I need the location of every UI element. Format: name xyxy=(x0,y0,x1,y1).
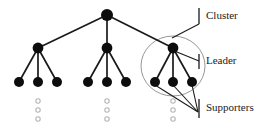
cluster-tree-diagram: ClusterLeaderSupporters xyxy=(0,0,270,128)
tree-node-supporter xyxy=(150,77,160,87)
tree-node-supporter xyxy=(102,77,112,87)
tree-node-leader xyxy=(168,43,179,54)
diagram-canvas: ClusterLeaderSupporters xyxy=(0,0,270,128)
tree-node-leader xyxy=(102,43,113,54)
label-leader: Leader xyxy=(206,54,237,66)
tree-node-supporter xyxy=(121,77,131,87)
tree-node-supporter xyxy=(52,77,62,87)
label-cluster: Cluster xyxy=(206,9,238,21)
tree-node-supporter xyxy=(168,77,178,87)
tree-node-supporter xyxy=(83,77,93,87)
tree-node-supporter xyxy=(187,77,197,87)
tree-node-supporter xyxy=(14,77,24,87)
tree-node-root xyxy=(101,9,113,21)
label-supporters: Supporters xyxy=(206,101,254,113)
tree-node-supporter xyxy=(33,77,43,87)
tree-node-leader xyxy=(33,43,44,54)
